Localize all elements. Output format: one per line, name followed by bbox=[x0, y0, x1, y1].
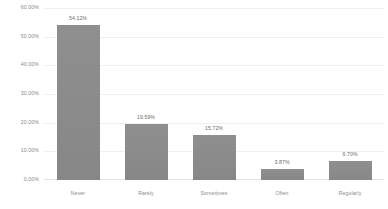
y-tick-label: 50.00% bbox=[21, 34, 39, 39]
y-tick-label: 10.00% bbox=[21, 149, 39, 154]
x-tick-label-sometimes: Sometimes bbox=[201, 185, 228, 196]
y-axis: 60.00% 50.00% 40.00% 30.00% 20.00% 10.00… bbox=[0, 0, 44, 209]
bars-layer: 54.12% 19.59% 15.72% 3.87% 6.70% bbox=[44, 8, 384, 180]
x-tick-slot: Sometimes bbox=[180, 181, 248, 199]
x-tick-slot: Often bbox=[248, 181, 316, 199]
x-tick-label-often: Often bbox=[275, 185, 288, 196]
x-tick-slot: Regularly bbox=[316, 181, 384, 199]
plot-area: 54.12% 19.59% 15.72% 3.87% 6.70% bbox=[44, 8, 384, 180]
y-tick-label: 20.00% bbox=[21, 120, 39, 125]
bar-slot-sometimes: 15.72% bbox=[180, 8, 248, 180]
x-tick-label-regularly: Regularly bbox=[339, 185, 362, 196]
y-tick-label: 30.00% bbox=[21, 91, 39, 96]
x-tick-slot: Rarely bbox=[112, 181, 180, 199]
bar-slot-rarely: 19.59% bbox=[112, 8, 180, 180]
x-axis: Never Rarely Sometimes Often Regularly bbox=[44, 181, 384, 201]
bar-never[interactable] bbox=[57, 25, 100, 180]
y-tick-label: 60.00% bbox=[21, 5, 39, 10]
x-tick-slot: Never bbox=[44, 181, 112, 199]
bar-value-label: 54.12% bbox=[69, 16, 87, 21]
bar-regularly[interactable] bbox=[329, 161, 372, 180]
bar-value-label: 6.70% bbox=[342, 152, 357, 157]
bar-slot-regularly: 6.70% bbox=[316, 8, 384, 180]
bar-slot-never: 54.12% bbox=[44, 8, 112, 180]
bar-often[interactable] bbox=[261, 169, 304, 180]
bar-value-label: 19.59% bbox=[137, 115, 155, 120]
bar-value-label: 3.87% bbox=[274, 160, 289, 165]
x-tick-label-never: Never bbox=[71, 185, 85, 196]
bar-chart: 60.00% 50.00% 40.00% 30.00% 20.00% 10.00… bbox=[0, 0, 388, 209]
bar-rarely[interactable] bbox=[125, 124, 168, 180]
y-tick-label: 40.00% bbox=[21, 63, 39, 68]
y-tick-label: 0.00% bbox=[24, 177, 39, 182]
bar-sometimes[interactable] bbox=[193, 135, 236, 180]
bar-slot-often: 3.87% bbox=[248, 8, 316, 180]
bar-value-label: 15.72% bbox=[205, 126, 223, 131]
x-tick-label-rarely: Rarely bbox=[138, 185, 154, 196]
